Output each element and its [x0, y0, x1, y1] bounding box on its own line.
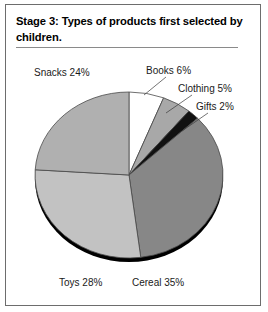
pie-slice-snacks — [35, 92, 129, 175]
slice-label-cereal: Cereal 35% — [132, 277, 184, 288]
pie-chart: Snacks 24% Books 6% Clothing 5% Gifts 2%… — [6, 51, 260, 305]
page-title: Stage 3: Types of products first selecte… — [16, 13, 248, 45]
pie-slice-toys — [35, 170, 141, 258]
slice-label-books: Books 6% — [146, 65, 191, 76]
pie-slices — [35, 77, 223, 258]
title-underline — [16, 47, 238, 48]
slice-label-toys: Toys 28% — [59, 277, 102, 288]
leader-line-books — [144, 77, 166, 95]
slice-label-snacks: Snacks 24% — [34, 67, 90, 78]
figure-container: Stage 3: Types of products first selecte… — [5, 4, 261, 306]
slice-label-gifts: Gifts 2% — [196, 101, 234, 112]
chart-title-block: Stage 3: Types of products first selecte… — [16, 13, 248, 48]
slice-label-clothing: Clothing 5% — [178, 83, 232, 94]
